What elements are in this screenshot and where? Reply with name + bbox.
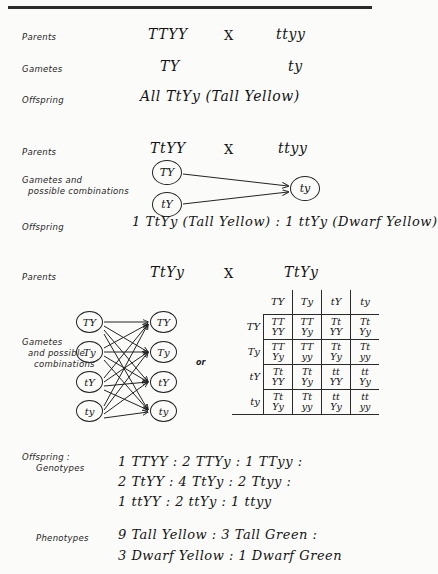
punnett-row-header-1: TY (232, 315, 264, 340)
offspring-genotypes-label-line1: Offspring : (22, 452, 70, 463)
third-gamete-left-1: TY (76, 311, 103, 333)
third-gamete-right-1: TY (150, 311, 177, 333)
offspring-genotypes-label-line2: Genotypes (36, 463, 85, 474)
punnett-cell-1-2: TtYy (322, 340, 351, 365)
genotype-ratio-line-2: 2 TtYY : 4 TtYy : 2 Ttyy : (118, 474, 291, 489)
third-gamete-left-4: ty (76, 400, 103, 422)
punnett-cell-3-2: ttYy (322, 390, 351, 415)
punnett-cell-3-0: TtYy (264, 390, 293, 415)
punnett-row-header-2: Ty (232, 340, 264, 365)
punnett-cell-0-3: TtYy (351, 315, 380, 340)
punnett-col-header-4: ty (351, 290, 380, 315)
punnett-cell-2-2: ttYY (322, 365, 351, 390)
phenotypes-label: Phenotypes (36, 533, 89, 544)
punnett-cell-2-0: TtYY (264, 365, 293, 390)
punnett-row-header-3: tY (232, 365, 264, 390)
punnett-cell-2-1: TtYy (293, 365, 322, 390)
punnett-col-header-2: Ty (293, 290, 322, 315)
punnett-cell-0-2: TtYY (322, 315, 351, 340)
punnett-cell-0-0: TTYY (264, 315, 293, 340)
punnett-cell-1-0: TTYy (264, 340, 293, 365)
third-gamete-right-3: tY (150, 371, 177, 393)
punnett-row-header-4: ty (232, 390, 264, 415)
or-label: or (196, 358, 205, 367)
punnett-cell-3-1: Ttyy (293, 390, 322, 415)
third-gamete-right-2: Ty (150, 341, 177, 363)
punnett-col-header-1: TY (264, 290, 293, 315)
genotype-ratio-line-3: 1 ttYY : 2 ttYy : 1 ttyy (118, 494, 272, 509)
punnett-square: TY Ty tY ty TY TTYY TTYy TtYY TtYy Ty TT… (232, 290, 379, 415)
punnett-cell-1-1: TTyy (293, 340, 322, 365)
punnett-cell-3-3: ttyy (351, 390, 380, 415)
phenotype-ratio-line-2: 3 Dwarf Yellow : 1 Dwarf Green (118, 548, 342, 563)
punnett-cell-2-3: ttYy (351, 365, 380, 390)
punnett-cell-0-1: TTYy (293, 315, 322, 340)
third-gamete-left-2: Ty (76, 341, 103, 363)
punnett-cell-1-3: Ttyy (351, 340, 380, 365)
punnett-corner (232, 290, 264, 315)
punnett-col-header-3: tY (322, 290, 351, 315)
phenotype-ratio-line-1: 9 Tall Yellow : 3 Tall Green : (118, 527, 317, 542)
third-gamete-right-4: ty (150, 400, 177, 422)
third-gamete-left-3: tY (76, 371, 103, 393)
genotype-ratio-line-1: 1 TTYY : 2 TTYy : 1 TTyy : (118, 454, 303, 469)
